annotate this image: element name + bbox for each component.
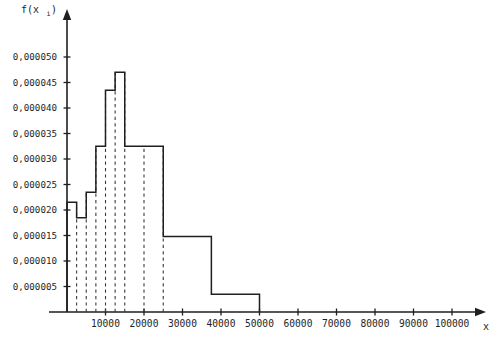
x-axis-tick-label: 70000 — [322, 318, 351, 329]
y-axis-tick-label: 0,000020 — [13, 204, 57, 215]
y-axis-tick-label: 0,000005 — [13, 281, 57, 292]
x-axis-tick-label: 90000 — [399, 318, 428, 329]
x-axis-title: x — [483, 321, 489, 332]
y-axis-tick-label: 0,000040 — [13, 102, 57, 113]
y-axis-tick-label: 0,000030 — [13, 153, 57, 164]
x-axis-tick-label: 10000 — [91, 318, 120, 329]
x-axis-tick-label: 40000 — [207, 318, 236, 329]
x-axis-tick-label: 80000 — [361, 318, 390, 329]
y-axis-title-close: ) — [51, 4, 57, 15]
y-axis-tick-label: 0,000050 — [13, 51, 57, 62]
y-axis-tick-label: 0,000045 — [13, 77, 57, 88]
x-axis-tick-label: 100000 — [435, 318, 470, 329]
y-axis-title-main: f(x — [21, 4, 39, 15]
x-axis-tick-label: 20000 — [130, 318, 159, 329]
chart-figure: 0,0000050,0000100,0000150,0000200,000025… — [0, 0, 499, 342]
x-axis-tick-label: 30000 — [168, 318, 197, 329]
y-axis-tick-label: 0,000015 — [13, 230, 57, 241]
histogram-plot: 0,0000050,0000100,0000150,0000200,000025… — [0, 0, 499, 342]
y-axis-tick-label: 0,000010 — [13, 255, 57, 266]
x-axis-tick-label: 50000 — [245, 318, 274, 329]
chart-background — [0, 0, 499, 342]
y-axis-tick-label: 0,000035 — [13, 128, 57, 139]
x-axis-tick-label: 60000 — [284, 318, 313, 329]
y-axis-tick-label: 0,000025 — [13, 179, 57, 190]
